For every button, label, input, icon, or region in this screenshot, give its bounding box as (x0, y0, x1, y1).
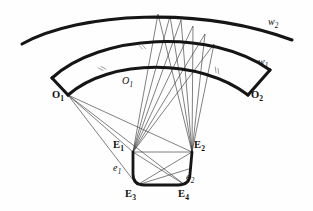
label-w1: w1 (258, 57, 268, 67)
diagram-canvas (0, 0, 313, 211)
arc-o1-o2 (68, 67, 248, 95)
label-e2: E2 (194, 140, 205, 151)
label-o1-vertex: O1 (52, 90, 64, 101)
label-e1: E1 (113, 140, 124, 151)
fan-to-e2 (158, 14, 214, 152)
emitter-chords (133, 152, 192, 185)
hatch-mark-middle (138, 44, 145, 50)
label-e4: E4 (178, 189, 189, 200)
arc-w1 (52, 42, 270, 78)
fan-to-e1 (133, 14, 214, 152)
label-o2-vertex: O2 (251, 90, 263, 101)
label-w2: w2 (268, 17, 278, 27)
label-e2-lower: e2 (186, 172, 194, 182)
hatch-mark-right (213, 67, 221, 75)
fan-from-o1 (68, 95, 192, 185)
hatch-mark-left (98, 65, 106, 73)
label-o1-arc: O1 (122, 76, 133, 86)
geometric-figure: w2 w1 O1 O1 O2 E1 E2 E3 E4 e1 e2 (0, 0, 313, 211)
label-e1-lower: e1 (113, 163, 121, 173)
label-e3: E3 (125, 189, 136, 200)
